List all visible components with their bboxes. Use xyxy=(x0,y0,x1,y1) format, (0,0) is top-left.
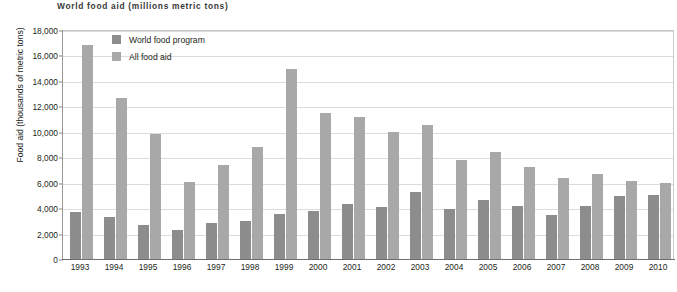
bar-all-food-aid xyxy=(592,174,603,259)
bar-world-food-program xyxy=(138,225,149,259)
y-axis-tick-label: 10,000 xyxy=(32,128,63,138)
x-axis-tick-label: 2009 xyxy=(615,262,634,272)
x-axis-tick-label: 1996 xyxy=(173,262,192,272)
bar-world-food-program xyxy=(342,204,353,259)
bar-world-food-program xyxy=(104,217,115,259)
x-axis-tick-label: 2007 xyxy=(547,262,566,272)
bar-group xyxy=(512,31,535,259)
x-axis-tick-label: 1994 xyxy=(105,262,124,272)
y-axis-tick-label: 18,000 xyxy=(32,26,63,36)
x-axis-line xyxy=(62,259,675,260)
bar-all-food-aid xyxy=(184,182,195,259)
bar-group xyxy=(410,31,433,259)
bar-group xyxy=(70,31,93,259)
bar-all-food-aid xyxy=(422,125,433,259)
legend-label-all-food-aid: All food aid xyxy=(129,52,172,62)
x-axis-tick-label: 1999 xyxy=(275,262,294,272)
legend-item-world-food-program: World food program xyxy=(112,31,205,48)
bar-group xyxy=(614,31,637,259)
bar-world-food-program xyxy=(206,223,217,259)
bar-group xyxy=(580,31,603,259)
bar-all-food-aid xyxy=(388,132,399,259)
y-axis-tick-label: 12,000 xyxy=(32,102,63,112)
bar-all-food-aid xyxy=(218,165,229,259)
bar-world-food-program xyxy=(512,206,523,259)
y-axis-tick-label: 4,000 xyxy=(37,204,63,214)
bar-all-food-aid xyxy=(626,181,637,259)
bar-world-food-program xyxy=(410,192,421,259)
x-axis-tick-label: 2000 xyxy=(309,262,328,272)
x-axis-tick-label: 2003 xyxy=(411,262,430,272)
bar-group xyxy=(240,31,263,259)
bar-all-food-aid xyxy=(286,69,297,259)
bar-world-food-program xyxy=(614,196,625,259)
y-axis-tick-label: 8,000 xyxy=(37,153,63,163)
bar-group xyxy=(104,31,127,259)
x-axis-tick-label: 1998 xyxy=(241,262,260,272)
y-axis-tick-label: 2,000 xyxy=(37,230,63,240)
x-axis-tick-label: 2010 xyxy=(649,262,668,272)
bar-world-food-program xyxy=(546,215,557,259)
bar-world-food-program xyxy=(308,211,319,259)
bar-all-food-aid xyxy=(660,183,671,259)
bar-group xyxy=(274,31,297,259)
chart-figure: World food aid (millions metric tons) Fo… xyxy=(0,0,677,292)
bar-world-food-program xyxy=(580,206,591,259)
bar-group xyxy=(648,31,671,259)
y-axis-tick-label: 6,000 xyxy=(37,179,63,189)
bar-group xyxy=(478,31,501,259)
bar-group xyxy=(138,31,161,259)
bar-world-food-program xyxy=(240,221,251,259)
bar-world-food-program xyxy=(172,230,183,259)
bar-all-food-aid xyxy=(150,134,161,259)
bar-all-food-aid xyxy=(354,117,365,259)
y-axis-label: Food aid (thousands of metric tons) xyxy=(15,0,25,205)
bar-all-food-aid xyxy=(116,98,127,259)
bar-all-food-aid xyxy=(252,147,263,259)
bar-group xyxy=(342,31,365,259)
bar-group xyxy=(308,31,331,259)
bar-group xyxy=(206,31,229,259)
chart-legend: World food program All food aid xyxy=(112,31,205,65)
bar-all-food-aid xyxy=(456,160,467,259)
bar-world-food-program xyxy=(274,214,285,259)
legend-swatch-icon-all-food-aid xyxy=(112,52,121,61)
bar-world-food-program xyxy=(648,195,659,259)
bar-group xyxy=(172,31,195,259)
x-axis-tick-labels: 1993199419951996199719981999200020012002… xyxy=(62,262,675,278)
bar-world-food-program xyxy=(70,212,81,259)
y-axis-tick-label: 16,000 xyxy=(32,51,63,61)
x-axis-tick-label: 1995 xyxy=(139,262,158,272)
x-axis-tick-label: 2001 xyxy=(343,262,362,272)
x-axis-tick-label: 1997 xyxy=(207,262,226,272)
x-axis-tick-label: 1993 xyxy=(71,262,90,272)
legend-label-world-food-program: World food program xyxy=(129,35,205,45)
x-axis-tick-label: 2004 xyxy=(445,262,464,272)
bar-group xyxy=(376,31,399,259)
bar-group xyxy=(444,31,467,259)
x-axis-tick-label: 2005 xyxy=(479,262,498,272)
bar-world-food-program xyxy=(376,207,387,259)
bar-group xyxy=(546,31,569,259)
bar-all-food-aid xyxy=(558,178,569,259)
legend-item-all-food-aid: All food aid xyxy=(112,48,205,65)
bar-world-food-program xyxy=(444,209,455,259)
bar-all-food-aid xyxy=(82,45,93,259)
bar-all-food-aid xyxy=(320,113,331,259)
x-axis-tick-label: 2006 xyxy=(513,262,532,272)
bar-all-food-aid xyxy=(490,152,501,260)
chart-title: World food aid (millions metric tons) xyxy=(57,1,228,11)
x-axis-tick-label: 2002 xyxy=(377,262,396,272)
bar-all-food-aid xyxy=(524,167,535,259)
x-axis-tick-label: 2008 xyxy=(581,262,600,272)
bar-groups xyxy=(64,31,673,259)
bar-world-food-program xyxy=(478,200,489,259)
legend-swatch-icon-world-food-program xyxy=(112,35,121,44)
y-axis-tick-label: 14,000 xyxy=(32,77,63,87)
